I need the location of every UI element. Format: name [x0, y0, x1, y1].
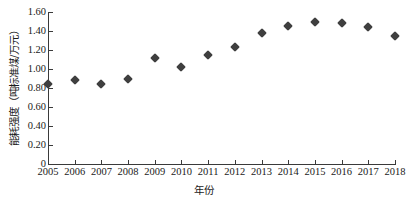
y-tick-mark [49, 88, 53, 89]
data-point [96, 79, 106, 89]
plot-area [48, 12, 395, 164]
x-tick-mark [181, 160, 182, 165]
y-tick-label: 1.20 [14, 45, 46, 55]
data-point [257, 28, 267, 38]
data-point [230, 42, 240, 52]
x-tick-mark [262, 160, 263, 165]
x-tick-mark [75, 160, 76, 165]
data-point [310, 17, 320, 27]
x-tick-mark [368, 160, 369, 165]
x-tick-mark [208, 160, 209, 165]
y-tick-label: 1.40 [14, 26, 46, 36]
x-tick-mark [101, 160, 102, 165]
x-tick-mark [315, 160, 316, 165]
x-tick-mark [155, 160, 156, 165]
y-tick-mark [49, 12, 53, 13]
y-tick-mark [49, 31, 53, 32]
x-tick-mark [48, 160, 49, 165]
y-tick-label: 0.60 [14, 102, 46, 112]
y-tick-label: 1.60 [14, 7, 46, 17]
x-axis-title: 年份 [0, 182, 409, 197]
x-tick-mark [288, 160, 289, 165]
data-point [70, 75, 80, 85]
y-tick-label: 0.80 [14, 83, 46, 93]
data-point [123, 74, 133, 84]
x-tick-label: 2018 [375, 166, 409, 178]
x-tick-mark [235, 160, 236, 165]
data-point [203, 50, 213, 60]
y-tick-mark [49, 126, 53, 127]
x-axis-line [48, 164, 396, 165]
y-tick-mark [49, 107, 53, 108]
y-tick-label: 0.40 [14, 121, 46, 131]
x-tick-mark [128, 160, 129, 165]
x-tick-mark [342, 160, 343, 165]
y-tick-label: 1.00 [14, 64, 46, 74]
y-tick-mark [49, 50, 53, 51]
x-axis-tick-labels: 2005200620072008200920102011201220132014… [48, 166, 398, 180]
x-tick-mark [395, 160, 396, 165]
data-point [363, 22, 373, 32]
data-point [390, 31, 400, 41]
data-point [337, 18, 347, 28]
y-tick-mark [49, 145, 53, 146]
data-point [283, 21, 293, 31]
y-tick-label: 0.20 [14, 140, 46, 150]
scatter-chart: 能耗强度（吨标准煤/万元） 00.200.400.600.801.001.201… [0, 0, 409, 201]
data-point [150, 53, 160, 63]
y-tick-mark [49, 69, 53, 70]
data-point [177, 62, 187, 72]
